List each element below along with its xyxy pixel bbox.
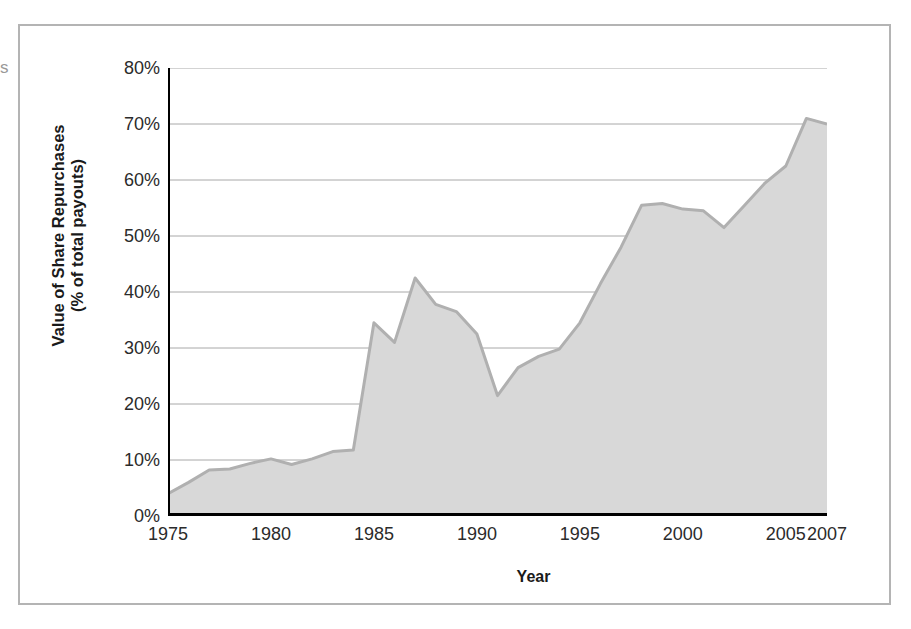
y-tick-label-60: 60% <box>90 170 160 191</box>
x-axis-tick-labels: 19751980198519901995200020052007 <box>168 524 827 556</box>
y-tick-label-30: 30% <box>90 338 160 359</box>
y-tick-label-10: 10% <box>90 450 160 471</box>
x-axis-title-wrapper: Year <box>0 568 911 586</box>
x-tick-label-1975: 1975 <box>148 524 188 545</box>
y-tick-label-70: 70% <box>90 114 160 135</box>
plot-area <box>168 68 827 516</box>
x-axis-title: Year <box>517 568 551 585</box>
y-axis-title: Value of Share Repurchases (% of total p… <box>49 105 88 365</box>
x-tick-label-1990: 1990 <box>457 524 497 545</box>
y-tick-label-20: 20% <box>90 394 160 415</box>
area-series-fill <box>168 118 827 516</box>
y-tick-label-50: 50% <box>90 226 160 247</box>
x-tick-label-1985: 1985 <box>354 524 394 545</box>
area-chart-svg <box>168 68 827 516</box>
y-axis-tick-labels: 0%10%20%30%40%50%60%70%80% <box>88 68 160 516</box>
x-tick-label-1995: 1995 <box>560 524 600 545</box>
x-tick-label-1980: 1980 <box>251 524 291 545</box>
y-tick-label-40: 40% <box>90 282 160 303</box>
x-tick-label-2000: 2000 <box>663 524 703 545</box>
y-tick-label-80: 80% <box>90 58 160 79</box>
x-tick-label-2005: 2005 <box>766 524 806 545</box>
x-tick-label-2007: 2007 <box>807 524 847 545</box>
y-axis-title-line-2: (% of total payouts) <box>68 105 87 365</box>
y-axis-title-line-1: Value of Share Repurchases <box>49 105 68 365</box>
page-bleed-glyph: s <box>0 58 9 78</box>
